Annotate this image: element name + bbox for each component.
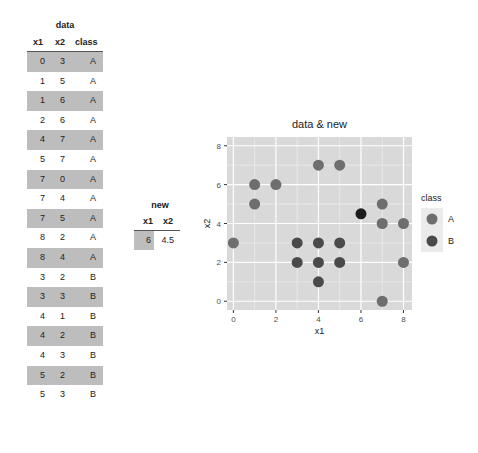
data-point-b: [313, 276, 324, 287]
data-point-a: [398, 218, 409, 229]
legend-label-b: B: [448, 236, 454, 246]
y-tick-label: 0: [217, 297, 222, 306]
x-tick-label: 6: [359, 315, 364, 324]
y-axis-label: x2: [202, 219, 212, 229]
x-tick-label: 4: [316, 315, 321, 324]
data-point-a: [249, 199, 260, 210]
data-point-b: [292, 257, 303, 268]
y-tick-label: 6: [217, 181, 222, 190]
data-point-a: [228, 237, 239, 248]
data-point-a: [398, 257, 409, 268]
y-tick-label: 8: [217, 142, 222, 151]
data-point-b: [313, 237, 324, 248]
data-point-b: [313, 257, 324, 268]
chart-title: data & new: [292, 118, 347, 130]
legend-key-a: [427, 214, 438, 225]
data-point-b: [292, 237, 303, 248]
data-point-a: [377, 296, 388, 307]
legend-label-a: A: [448, 214, 454, 224]
data-point-a: [249, 179, 260, 190]
x-tick-label: 2: [274, 315, 279, 324]
legend-title: class: [421, 193, 442, 203]
x-tick-label: 8: [401, 315, 406, 324]
data-point-a: [270, 179, 281, 190]
data-point-a: [313, 160, 324, 171]
data-point-a: [377, 218, 388, 229]
data-point-a: [377, 199, 388, 210]
y-tick-label: 4: [217, 220, 222, 229]
legend-key-b: [427, 236, 438, 247]
x-axis-label: x1: [315, 326, 325, 336]
data-point-new: [355, 208, 366, 219]
data-point-b: [334, 237, 345, 248]
y-tick-label: 2: [217, 258, 222, 267]
x-tick-label: 0: [231, 315, 236, 324]
data-point-b: [334, 257, 345, 268]
data-point-a: [334, 160, 345, 171]
scatter-plot: 0246802468data & newx1x2classAB: [0, 0, 478, 453]
